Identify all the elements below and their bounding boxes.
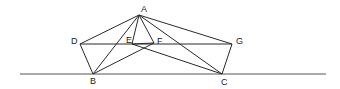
segment-gc (222, 44, 232, 74)
label-c: C (221, 78, 228, 87)
segment-ec (132, 44, 222, 74)
diagram-lines (0, 0, 340, 89)
segments (80, 15, 232, 74)
label-a: A (141, 5, 147, 14)
label-e: E (126, 36, 132, 45)
segment-db (80, 44, 93, 74)
label-b: B (90, 77, 96, 86)
segment-ag (139, 15, 232, 44)
label-f: F (157, 37, 163, 46)
label-g: G (236, 37, 243, 46)
segment-fb (93, 43, 154, 74)
label-d: D (71, 37, 78, 46)
geometry-diagram: A D E F G B C (0, 0, 340, 89)
